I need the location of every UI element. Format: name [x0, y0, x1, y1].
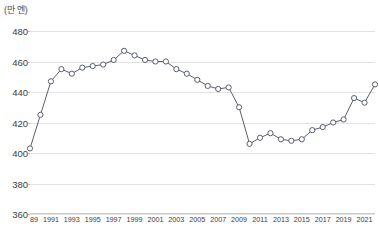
data-point-1999	[132, 53, 137, 58]
data-point-1991	[48, 79, 53, 84]
data-point-1994	[80, 65, 85, 70]
data-point-2015	[299, 137, 304, 142]
line-series-average-salary	[30, 31, 375, 214]
x-axis-tick-2015: 2015	[294, 215, 310, 224]
y-axis-tick-480: 480	[2, 26, 28, 37]
data-point-2013	[278, 137, 283, 142]
data-point-2020	[351, 96, 356, 101]
data-point-2012	[268, 131, 273, 136]
data-point-2016	[310, 128, 315, 133]
data-point-2019	[341, 117, 346, 122]
data-point-2005	[195, 77, 200, 82]
data-point-1990	[38, 112, 43, 117]
data-point-2001	[153, 59, 158, 64]
data-point-1995	[90, 63, 95, 68]
data-point-2017	[320, 124, 325, 129]
data-point-2002	[163, 59, 168, 64]
data-point-2022	[372, 82, 377, 87]
y-axis-tick-460: 460	[2, 56, 28, 67]
x-axis-tick-1995: 1995	[85, 215, 101, 224]
x-axis-tick-1989: 1989	[30, 215, 38, 224]
data-point-1989	[27, 146, 32, 151]
y-axis-tick-420: 420	[2, 117, 28, 128]
x-axis-tick-1991: 1991	[43, 215, 59, 224]
data-point-2014	[289, 138, 294, 143]
x-axis-tick-1999: 1999	[127, 215, 143, 224]
plot-area	[30, 31, 375, 214]
data-point-1996	[101, 62, 106, 67]
data-point-2008	[226, 85, 231, 90]
x-axis-tick-2001: 2001	[147, 215, 163, 224]
x-axis-tick-2017: 2017	[315, 215, 331, 224]
data-point-2011	[257, 135, 262, 140]
x-axis-tick-2019: 2019	[336, 215, 352, 224]
y-axis-tick-440: 440	[2, 87, 28, 98]
data-point-1998	[121, 48, 126, 53]
data-point-2021	[362, 100, 367, 105]
data-point-2000	[142, 57, 147, 62]
x-axis-tick-1997: 1997	[106, 215, 122, 224]
data-point-2018	[331, 120, 336, 125]
y-axis-unit-label: (만 엔)	[4, 3, 28, 16]
data-point-1993	[69, 71, 74, 76]
data-point-2004	[184, 71, 189, 76]
data-point-2006	[205, 83, 210, 88]
chart-container: (만 엔) 480460440420400380360 198919911993…	[0, 0, 379, 227]
data-point-2003	[174, 67, 179, 72]
y-axis-tick-400: 400	[2, 148, 28, 159]
data-point-2010	[247, 141, 252, 146]
x-axis-tick-labels: 1989199119931995199719992001200320052007…	[30, 215, 375, 227]
x-axis-tick-2013: 2013	[273, 215, 289, 224]
x-axis-tick-2005: 2005	[189, 215, 205, 224]
data-point-2007	[216, 86, 221, 91]
data-point-1992	[59, 67, 64, 72]
x-axis-tick-2021: 2021	[357, 215, 373, 224]
y-axis-tick-380: 380	[2, 178, 28, 189]
x-axis-tick-2011: 2011	[252, 215, 267, 224]
x-axis-tick-2003: 2003	[168, 215, 184, 224]
x-axis-tick-2009: 2009	[231, 215, 247, 224]
data-point-1997	[111, 57, 116, 62]
y-axis-tick-labels: 480460440420400380360	[0, 31, 28, 214]
x-axis-tick-2007: 2007	[210, 215, 226, 224]
data-point-2009	[236, 105, 241, 110]
x-axis-tick-1993: 1993	[64, 215, 80, 224]
y-axis-tick-360: 360	[2, 209, 28, 220]
